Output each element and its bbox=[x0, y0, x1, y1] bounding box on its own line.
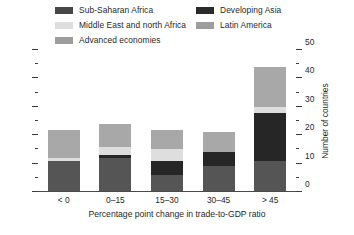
y-axis-minor-tick bbox=[296, 120, 299, 121]
y-axis-minor-tick bbox=[296, 177, 299, 178]
y-axis-title: Number of countries bbox=[318, 50, 332, 192]
y-axis-minor-tick bbox=[296, 148, 299, 149]
y-axis-tick bbox=[296, 77, 302, 78]
bar--45 bbox=[254, 67, 286, 192]
x-axis-tick-labels: < 0 0–15 15–30 30–45 > 45 bbox=[38, 195, 296, 207]
x-axis-title: Percentage point change in trade-to-GDP … bbox=[0, 209, 354, 219]
legend-column-right: Developing Asia Latin America bbox=[196, 4, 281, 34]
bar-segment bbox=[254, 161, 286, 192]
legend-column-left: Sub-Saharan Africa Middle East and north… bbox=[55, 4, 186, 49]
y-axis-tick bbox=[296, 163, 302, 164]
legend-swatch-developing-asia bbox=[196, 7, 214, 14]
y-axis-tick bbox=[296, 134, 302, 135]
x-axis-tick-label: 15–30 bbox=[151, 195, 183, 207]
legend-swatch-sub-saharan-africa bbox=[55, 7, 73, 14]
plot-area bbox=[38, 50, 296, 192]
y-axis-tick-label: 40 bbox=[305, 66, 314, 74]
legend-swatch-latin-america bbox=[196, 22, 214, 29]
bar-segment bbox=[151, 130, 183, 150]
legend-item-sub-saharan-africa: Sub-Saharan Africa bbox=[55, 4, 186, 17]
y-axis-left-ticks bbox=[28, 50, 38, 192]
legend-label-developing-asia: Developing Asia bbox=[220, 6, 281, 15]
y-axis-tick-label: 20 bbox=[305, 123, 314, 131]
x-axis-line bbox=[38, 191, 296, 192]
chart-container: Sub-Saharan Africa Middle East and north… bbox=[0, 0, 354, 235]
chart-legend: Sub-Saharan Africa Middle East and north… bbox=[0, 0, 354, 46]
x-axis-tick-label: < 0 bbox=[48, 195, 80, 207]
legend-item-developing-asia: Developing Asia bbox=[196, 4, 281, 17]
legend-swatch-advanced-economies bbox=[55, 37, 73, 44]
bar-segment bbox=[48, 161, 80, 192]
bar--0 bbox=[48, 130, 80, 192]
y-axis-tick-label: 50 bbox=[305, 38, 314, 46]
bar-segment bbox=[203, 152, 235, 166]
y-axis-tick bbox=[296, 106, 302, 107]
legend-label-advanced-economies: Advanced economies bbox=[79, 36, 161, 45]
y-axis-minor-tick bbox=[296, 92, 299, 93]
bar-segment bbox=[48, 130, 80, 158]
legend-label-middle-east-and-north-africa: Middle East and north Africa bbox=[79, 21, 186, 30]
bar-segment bbox=[151, 175, 183, 192]
bar-segment bbox=[151, 149, 183, 160]
y-axis-tick-label: 10 bbox=[305, 152, 314, 160]
legend-item-latin-america: Latin America bbox=[196, 19, 281, 32]
bar-30-45 bbox=[203, 132, 235, 192]
y-axis-tick bbox=[296, 191, 302, 192]
y-axis-tick-label: 30 bbox=[305, 95, 314, 103]
bar-segment bbox=[151, 161, 183, 175]
legend-swatch-middle-east-and-north-africa bbox=[55, 22, 73, 29]
bar-0-15 bbox=[99, 124, 131, 192]
bar-group bbox=[38, 50, 296, 192]
bar-segment bbox=[99, 124, 131, 147]
bar-segment bbox=[203, 166, 235, 192]
bar-segment bbox=[99, 158, 131, 192]
y-axis-tick bbox=[296, 49, 302, 50]
x-axis-tick-label: 0–15 bbox=[99, 195, 131, 207]
bar-15-30 bbox=[151, 130, 183, 192]
legend-label-latin-america: Latin America bbox=[220, 21, 272, 30]
bar-segment bbox=[203, 132, 235, 152]
x-axis-tick-label: 30–45 bbox=[203, 195, 235, 207]
y-axis-tick-label: 0 bbox=[305, 180, 310, 188]
y-axis-minor-tick bbox=[296, 63, 299, 64]
y-axis-title-text: Number of countries bbox=[320, 83, 330, 158]
bar-segment bbox=[99, 147, 131, 156]
bar-segment bbox=[254, 113, 286, 161]
legend-item-advanced-economies: Advanced economies bbox=[55, 34, 186, 47]
x-axis-tick-label: > 45 bbox=[254, 195, 286, 207]
legend-label-sub-saharan-africa: Sub-Saharan Africa bbox=[79, 6, 153, 15]
bar-segment bbox=[254, 67, 286, 107]
legend-item-middle-east-and-north-africa: Middle East and north Africa bbox=[55, 19, 186, 32]
